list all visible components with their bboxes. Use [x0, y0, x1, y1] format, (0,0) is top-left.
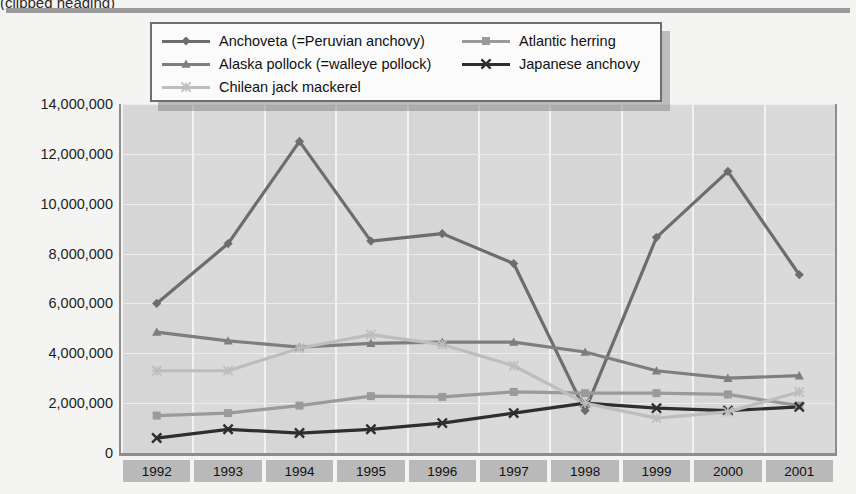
series-line — [157, 392, 800, 416]
data-point-asterisk — [366, 330, 375, 339]
data-point-square — [581, 389, 589, 397]
legend-item[interactable]: Anchoveta (=Peruvian anchovy) — [162, 29, 462, 52]
data-point-triangle — [181, 59, 190, 67]
data-point-square — [510, 388, 518, 396]
legend-label: Japanese anchovy — [519, 56, 640, 72]
data-point-asterisk — [181, 82, 190, 91]
data-point-asterisk — [152, 366, 161, 375]
legend-label: Chilean jack mackerel — [219, 79, 361, 95]
data-point-asterisk — [581, 399, 590, 408]
asterisk-marker-icon — [162, 80, 210, 94]
data-point-square — [724, 390, 732, 398]
data-point-asterisk — [224, 366, 233, 375]
data-point-x — [481, 59, 490, 68]
data-point-square — [653, 389, 661, 397]
data-point-square — [153, 412, 161, 420]
data-point-asterisk — [438, 340, 447, 349]
data-point-asterisk — [652, 414, 661, 423]
chart-figure: (clipped heading) 02,000,0004,000,0006,0… — [0, 0, 856, 494]
triangle-marker-icon — [162, 57, 210, 71]
data-point-asterisk — [795, 387, 804, 396]
series-line — [157, 141, 800, 410]
diamond-marker-icon — [162, 34, 210, 48]
data-point-square — [438, 393, 446, 401]
series-line — [157, 403, 800, 438]
legend-item[interactable]: Atlantic herring — [462, 29, 652, 52]
legend-label: Atlantic herring — [519, 33, 616, 49]
legend-item[interactable]: Alaska pollock (=walleye pollock) — [162, 52, 462, 75]
x-marker-icon — [462, 57, 510, 71]
data-point-square — [296, 402, 304, 410]
legend-label: Alaska pollock (=walleye pollock) — [219, 56, 431, 72]
data-point-square — [482, 37, 490, 45]
legend-item[interactable]: Japanese anchovy — [462, 52, 652, 75]
square-marker-icon — [462, 34, 510, 48]
data-point-asterisk — [723, 407, 732, 416]
data-point-asterisk — [509, 361, 518, 370]
data-point-diamond — [438, 229, 447, 238]
data-point-square — [367, 392, 375, 400]
legend-item[interactable]: Chilean jack mackerel — [162, 75, 462, 98]
legend-label: Anchoveta (=Peruvian anchovy) — [219, 33, 425, 49]
data-point-square — [224, 409, 232, 417]
chart-legend: Anchoveta (=Peruvian anchovy)Atlantic he… — [150, 22, 662, 102]
data-point-diamond — [181, 36, 190, 45]
data-point-asterisk — [295, 344, 304, 353]
